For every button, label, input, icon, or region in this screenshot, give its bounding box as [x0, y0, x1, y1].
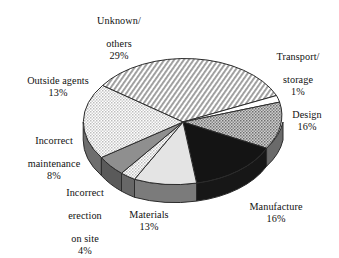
pie-label-materials-percent: 13%: [116, 221, 182, 232]
pie-label-incorrect-maintenance-line1: Incorrect: [35, 135, 73, 146]
pie-label-outside-agents-line1: Outside agents: [27, 75, 89, 86]
pie-label-incorrect-maintenance-percent: 8%: [10, 170, 98, 181]
pie-label-unknown-others-line2: others: [106, 38, 132, 49]
pie-label-transport-storage-line2: storage: [283, 74, 313, 85]
pie-label-materials: Materials 13%: [116, 198, 182, 244]
pie-label-materials-line1: Materials: [129, 209, 168, 220]
pie-label-incorrect-erection-line2: erection: [68, 210, 102, 221]
pie-label-incorrect-maintenance-line2: maintenance: [28, 158, 81, 169]
pie-label-design: Design 16%: [278, 98, 336, 144]
pie-label-manufacture-percent: 16%: [232, 213, 320, 224]
pie-label-incorrect-erection-line3: on site: [71, 233, 99, 244]
pie-label-manufacture: Manufacture 16%: [232, 190, 320, 236]
pie-label-transport-storage-line1: Transport/: [276, 51, 319, 62]
pie-label-transport-storage-percent: 1%: [258, 86, 338, 97]
pie-label-design-percent: 16%: [278, 121, 336, 132]
pie-label-outside-agents-percent: 13%: [6, 87, 110, 98]
pie-label-unknown-others: Unknown/ others 29%: [76, 4, 162, 73]
pie-label-unknown-others-percent: 29%: [76, 50, 162, 61]
pie-label-manufacture-line1: Manufacture: [249, 201, 302, 212]
pie-label-outside-agents: Outside agents 13%: [6, 64, 110, 110]
pie-label-incorrect-erection-percent: 4%: [52, 245, 118, 256]
pie-label-unknown-others-line1: Unknown/: [97, 15, 141, 26]
pie-label-incorrect-maintenance: Incorrect maintenance 8%: [10, 124, 98, 193]
pie-label-design-line1: Design: [292, 109, 321, 120]
